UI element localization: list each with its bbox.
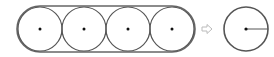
center-dot (83, 28, 86, 31)
circle-3 (106, 7, 150, 51)
center-dot (171, 28, 174, 31)
center-dot (244, 27, 247, 30)
circle-2 (62, 7, 106, 51)
result-circle (224, 7, 268, 51)
center-dot (127, 28, 130, 31)
circle-4 (150, 7, 194, 51)
center-dot (39, 28, 42, 31)
circle-packing-diagram (0, 0, 274, 57)
circle-1 (18, 7, 62, 51)
right-arrow-icon (202, 25, 212, 34)
